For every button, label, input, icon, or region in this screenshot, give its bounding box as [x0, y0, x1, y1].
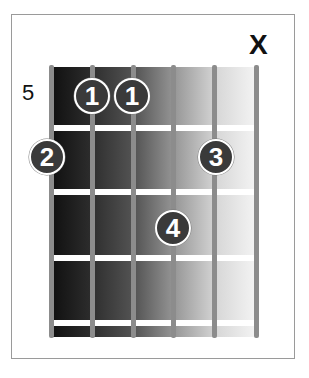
string-2: [212, 65, 217, 338]
finger-dot-1a: 1: [74, 78, 110, 114]
finger-dot-3: 3: [198, 139, 234, 175]
fret-line-3: [53, 255, 259, 261]
string-3: [171, 65, 176, 338]
finger-dot-4: 4: [155, 210, 191, 246]
fret-line-1: [53, 125, 259, 131]
string-6: [49, 65, 54, 338]
fret-line-4: [53, 320, 259, 326]
muted-string-marker: X: [249, 29, 268, 61]
starting-fret-label: 5: [22, 80, 34, 106]
finger-dot-1b: 1: [114, 78, 150, 114]
finger-dot-2: 2: [29, 139, 65, 175]
fret-line-2: [53, 189, 259, 195]
string-1: [254, 65, 259, 338]
